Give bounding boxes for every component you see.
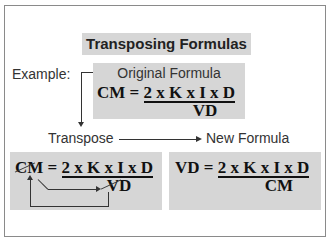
transpose-label: Transpose: [48, 130, 114, 146]
new-formula: VD = 2 x K x I x D: [175, 158, 309, 178]
arrow-line: [119, 139, 197, 140]
original-formula-box: Original Formula CM = 2 x K x I x D VD: [93, 63, 245, 119]
arrow-right-icon: [196, 136, 202, 142]
arrow-up-icon: [27, 175, 33, 180]
original-formula: CM = 2 x K x I x D: [97, 83, 235, 103]
formula-denominator: VD: [175, 101, 235, 121]
page-title: Transposing Formulas: [82, 33, 251, 55]
formula-denominator: CM: [249, 176, 309, 196]
swap-line-vd-down: [108, 192, 109, 206]
swap-line-top: [48, 189, 96, 190]
new-formula-box: VD = 2 x K x I x D CM: [169, 152, 321, 210]
swap-line-up: [30, 180, 31, 206]
formula-lhs: VD =: [175, 158, 214, 177]
new-formula-label: New Formula: [206, 130, 289, 146]
arrow-right-icon: [96, 186, 101, 192]
transpose-example-box: CM = 2 x K x I x D VD: [10, 152, 162, 210]
connector-vertical: [81, 72, 82, 124]
arrow-down-icon: [78, 122, 84, 127]
transpose-formula: CM = 2 x K x I x D: [15, 158, 153, 178]
example-label: Example:: [12, 66, 70, 82]
formula-lhs: CM =: [97, 83, 139, 102]
swap-diagonal: [38, 179, 49, 190]
original-formula-label: Original Formula: [93, 65, 245, 81]
swap-line-bottom: [30, 206, 109, 207]
